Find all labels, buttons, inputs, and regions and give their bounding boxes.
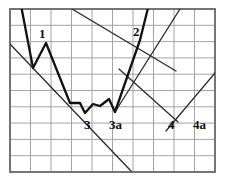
- label-4a: 4a: [193, 118, 206, 131]
- label-4: 4: [168, 118, 175, 131]
- label-2: 2: [133, 25, 140, 38]
- chart-canvas: [0, 0, 227, 181]
- label-1: 1: [39, 27, 46, 40]
- technical-analysis-chart: 1233a44a: [0, 0, 227, 181]
- label-3a: 3a: [109, 118, 122, 131]
- ascending-resistance-through-2: [115, 9, 180, 112]
- label-3: 3: [84, 118, 91, 131]
